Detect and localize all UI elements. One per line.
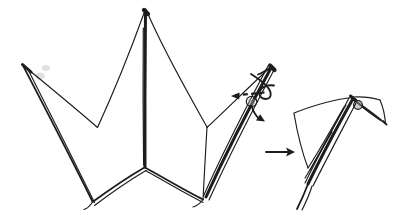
origami-illustration [0,0,401,224]
centre-vertical-crease [145,10,146,167]
paper-smudge [42,65,50,71]
origami-diagram: Origami Crane Fold Step Crane base seen … [0,0,401,224]
fold-pivot-shading [248,98,255,105]
